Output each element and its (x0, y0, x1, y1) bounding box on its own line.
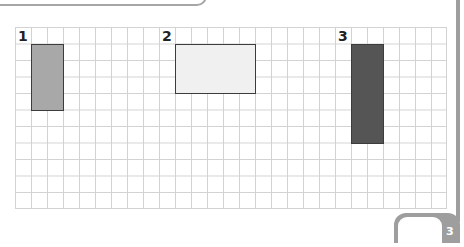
shape-label-2: 2 (162, 29, 172, 43)
shape-label-3: 3 (338, 29, 348, 43)
shape-label-1: 1 (18, 29, 28, 43)
right-page-edge (456, 0, 460, 222)
page-corner-inner (398, 217, 442, 247)
page-number: 3 (446, 225, 454, 238)
rectangle-2 (175, 44, 256, 95)
page-corner-tab: 3 (394, 213, 464, 243)
top-frame-border (0, 0, 207, 6)
rectangle-3 (351, 44, 384, 144)
rectangle-1 (31, 44, 64, 111)
